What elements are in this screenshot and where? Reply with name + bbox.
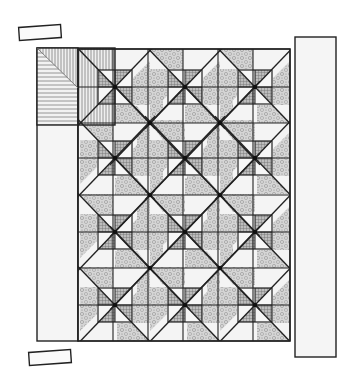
star-center-dot — [253, 85, 257, 89]
right-border — [295, 37, 336, 357]
quilt-diagram — [0, 0, 356, 392]
star-center-dot — [218, 121, 222, 125]
star-center-dot — [218, 266, 222, 270]
star-center-dot — [253, 303, 257, 307]
star-center-dot — [183, 230, 187, 234]
star-center-dot — [148, 193, 152, 197]
top-loose-strip — [19, 25, 62, 41]
star-center-dot — [183, 156, 187, 160]
star-center-dot — [148, 121, 152, 125]
star-center-dot — [183, 85, 187, 89]
star-center-dot — [253, 156, 257, 160]
star-center-dot — [148, 266, 152, 270]
bottom-loose-strip — [29, 350, 72, 366]
star-center-dot — [253, 230, 257, 234]
star-center-dot — [183, 303, 187, 307]
star-center-dot — [113, 85, 117, 89]
star-center-dot — [113, 303, 117, 307]
quilt-layout — [0, 0, 356, 392]
star-center-dot — [113, 230, 117, 234]
star-center-dot — [218, 193, 222, 197]
star-center-dot — [113, 156, 117, 160]
